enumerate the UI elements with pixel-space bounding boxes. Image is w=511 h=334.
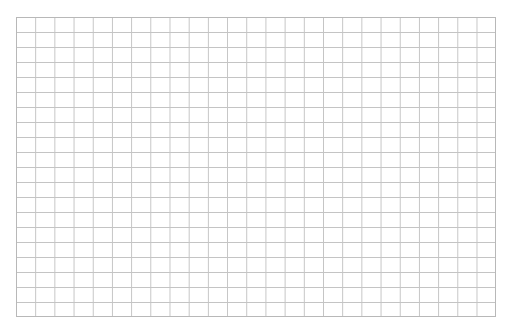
empty-grid [16,17,496,317]
clipped-header-text: ▀▀▀ ▀▀▀▀▀ ▀▀▀▀▀▀▀▀▀▀▀▀▀▀▀▀▀▀ [8,0,158,6]
